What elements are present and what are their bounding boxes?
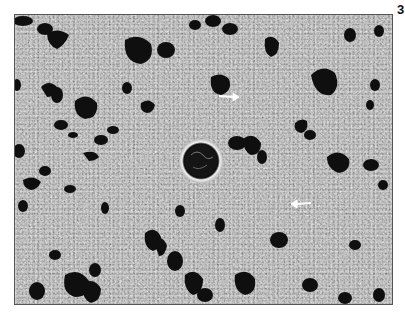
figure-caption-clipped bbox=[16, 314, 286, 323]
micrograph-image bbox=[14, 14, 393, 305]
tissue-texture bbox=[15, 15, 393, 305]
figure-number-label: 3 bbox=[397, 3, 404, 17]
central-vein bbox=[179, 139, 223, 183]
